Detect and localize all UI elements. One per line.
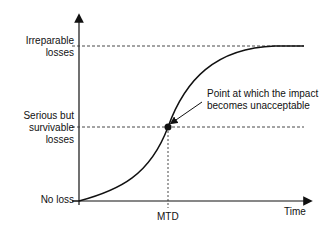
label-serious: Serious but survivable losses: [23, 110, 74, 146]
annotation-text: Point at which the impact becomes unacce…: [207, 88, 318, 112]
mtd-point: [165, 124, 172, 131]
label-time: Time: [284, 206, 306, 218]
label-irreparable: Irreparable losses: [26, 35, 74, 59]
label-serious-line1: Serious but: [23, 110, 74, 122]
annotation-line1: Point at which the impact: [207, 88, 318, 100]
label-noloss: No loss: [41, 194, 74, 206]
annotation-line2: becomes unacceptable: [207, 100, 318, 112]
label-irreparable-line1: Irreparable: [26, 35, 74, 47]
impact-curve: [79, 46, 304, 201]
label-mtd: MTD: [157, 211, 179, 223]
label-irreparable-line2: losses: [26, 47, 74, 59]
label-serious-line2: survivable: [23, 122, 74, 134]
label-serious-line3: losses: [23, 134, 74, 146]
